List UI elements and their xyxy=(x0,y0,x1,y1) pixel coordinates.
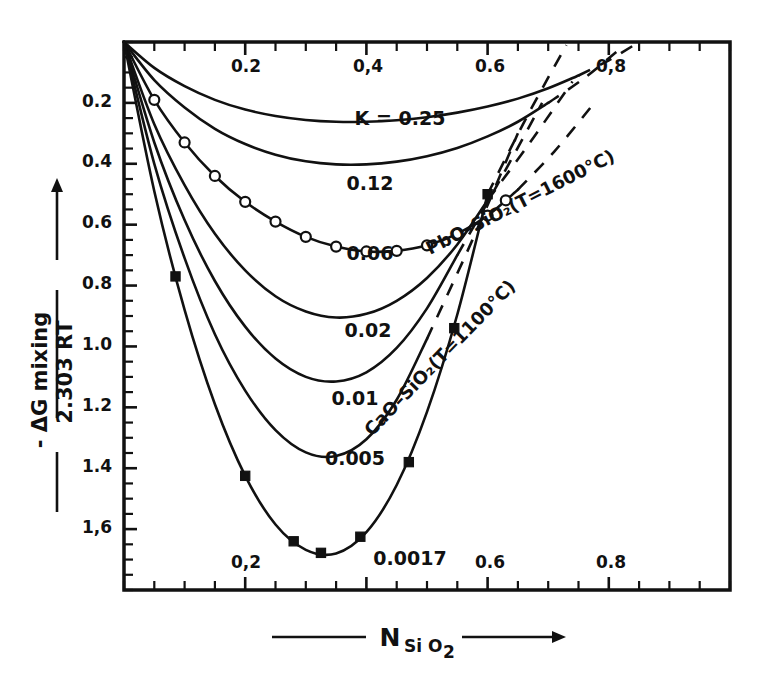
y-axis-title: - ΔG mixing 2.303 RT xyxy=(28,178,77,512)
arrow-right-icon xyxy=(552,631,566,643)
y-tick-label-6: 1.4 xyxy=(82,456,112,476)
x-bottom-tick-label-1: 0.6 xyxy=(475,552,505,572)
marker-filled-square xyxy=(316,548,325,557)
marker-filled-square xyxy=(241,471,250,480)
curve-label-012: 0.12 xyxy=(347,172,394,194)
marker-open-circle xyxy=(240,197,250,207)
x-bottom-tick-label-2: 0.8 xyxy=(596,552,626,572)
marker-filled-square xyxy=(356,532,365,541)
curve-label-k025: K = 0.25 xyxy=(355,107,446,129)
curve-label-001: 0.01 xyxy=(332,387,379,409)
y-axis-title-numerator: - ΔG mixing xyxy=(28,312,52,449)
y-tick-label-2: 0.6 xyxy=(82,212,112,232)
marker-filled-square xyxy=(289,537,298,546)
curve-4 xyxy=(124,42,457,382)
marker-open-circle xyxy=(210,171,220,181)
curve-0 xyxy=(124,42,579,122)
series-label-cao-sio2: CaO–SiO₂(T=1100°C) xyxy=(360,275,520,439)
marker-open-circle xyxy=(331,242,341,252)
curve-label-0005: 0.005 xyxy=(325,447,385,469)
x-axis-title-sub2: 2 xyxy=(443,642,455,662)
x-top-tick-label-2: 0.6 xyxy=(475,56,505,76)
y-tick-label-4: 1.0 xyxy=(82,334,112,354)
marker-filled-square xyxy=(171,272,180,281)
marker-open-circle xyxy=(271,217,281,227)
x-bottom-tick-label-0: 0,2 xyxy=(231,552,261,572)
marker-filled-square xyxy=(404,458,413,467)
y-tick-label-7: 1,6 xyxy=(82,517,112,537)
y-tick-label-5: 1.2 xyxy=(82,395,112,415)
marker-open-circle xyxy=(301,232,311,242)
curve-label-006: 0.06 xyxy=(347,242,394,264)
y-tick-label-0: 0.2 xyxy=(82,91,112,111)
marker-filled-square xyxy=(483,190,492,199)
y-tick-label-3: 0.8 xyxy=(82,273,112,293)
arrow-up-icon xyxy=(51,178,63,192)
y-axis-title-denominator: 2.303 RT xyxy=(53,320,77,424)
y-tick-label-1: 0.4 xyxy=(82,151,112,171)
curve-label-00017: 0.0017 xyxy=(373,547,446,569)
x-axis-title-sub: Si O xyxy=(404,636,442,656)
x-top-tick-label-3: 0,8 xyxy=(596,56,626,76)
marker-open-circle xyxy=(180,137,190,147)
x-top-tick-label-1: 0,4 xyxy=(353,56,383,76)
thermodynamic-chart: 0.2 0,4 0.6 0,8 0,2 0.6 0.8 0.2 0.4 0.6 … xyxy=(0,0,760,682)
x-axis-title: N Si O 2 xyxy=(272,623,566,662)
x-axis-title-main: N xyxy=(380,623,401,652)
series-label-pbo-sio2: PbO–SiO₂(T=1600°C) xyxy=(422,145,618,259)
curve-label-002: 0.02 xyxy=(345,319,392,341)
marker-open-circle xyxy=(149,95,159,105)
x-top-tick-label-0: 0.2 xyxy=(231,56,261,76)
